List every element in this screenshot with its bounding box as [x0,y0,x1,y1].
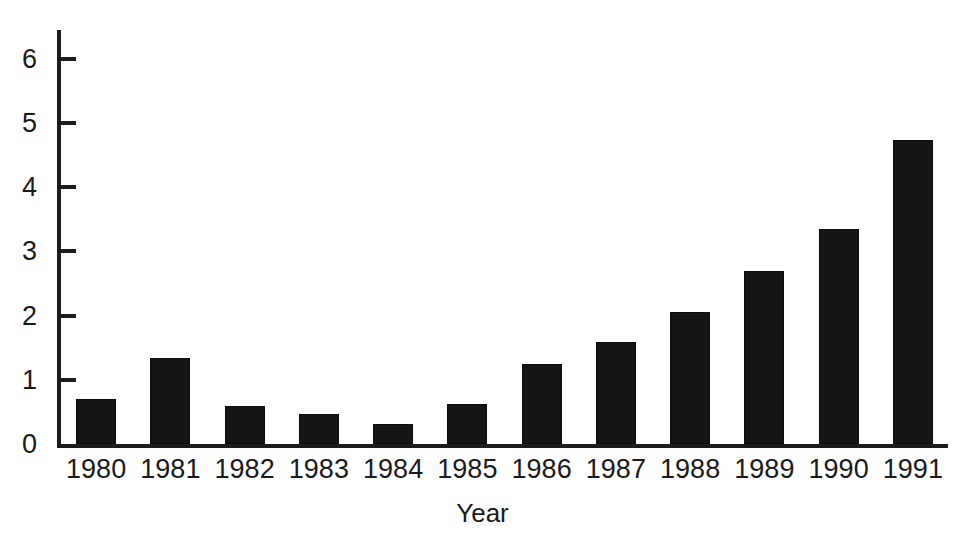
bar-1991 [893,140,933,444]
bar-1983 [299,414,339,444]
x-tick-label-1983: 1983 [289,452,349,486]
x-tick-label-1987: 1987 [586,452,646,486]
bar-1986 [522,364,562,444]
bar-1980 [76,399,116,444]
x-tick-label-1982: 1982 [215,452,275,486]
bar-chart: 0123456 19801981198219831984198519861987… [0,0,965,552]
y-tick-label: 4 [22,174,37,201]
bar-1984 [373,424,413,444]
y-tick-label: 2 [22,302,37,329]
x-tick-label-1980: 1980 [66,452,126,486]
x-tick-label-1990: 1990 [809,452,869,486]
y-tick-label: 0 [22,431,37,458]
y-tick-label: 1 [22,366,37,393]
bar-1990 [819,229,859,444]
y-tick-label: 6 [22,45,37,72]
bar-1989 [744,271,784,444]
bar-1982 [225,406,265,445]
y-tick-label: 5 [22,110,37,137]
x-tick-label-1988: 1988 [660,452,720,486]
x-tick-label-1985: 1985 [437,452,497,486]
x-tick-label-1984: 1984 [363,452,423,486]
x-tick-label-1991: 1991 [883,452,943,486]
x-tick-label-1981: 1981 [140,452,200,486]
bar-1981 [150,358,190,444]
bar-series [57,30,948,444]
x-tick-label-1989: 1989 [734,452,794,486]
bar-1987 [596,342,636,444]
plot-area: 0123456 [57,30,948,448]
x-axis-line [57,444,948,448]
y-tick-label: 3 [22,238,37,265]
x-axis-tick-labels: 1980198119821983198419851986198719881989… [57,452,948,486]
x-axis-title: Year [0,498,965,529]
bar-1988 [670,312,710,444]
bar-1985 [447,404,487,444]
x-tick-label-1986: 1986 [512,452,572,486]
